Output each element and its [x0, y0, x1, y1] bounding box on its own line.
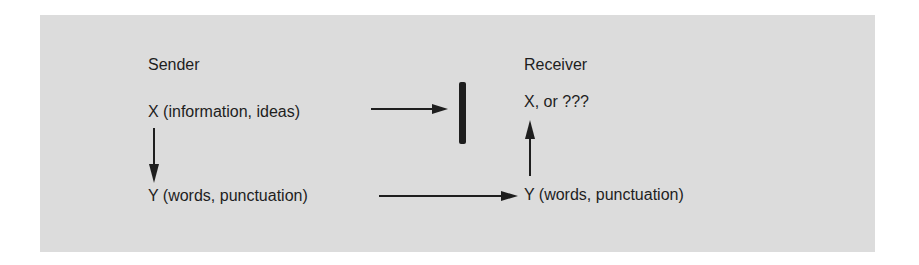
arrow-receiver-y-to-x: [525, 120, 535, 176]
arrow-sender-y-to-receiver-y: [379, 191, 518, 201]
diagram-arrows: [0, 0, 919, 265]
barrier-bar: [459, 82, 466, 144]
arrow-sender-x-to-barrier: [371, 104, 448, 114]
arrow-sender-x-to-y: [149, 128, 159, 183]
